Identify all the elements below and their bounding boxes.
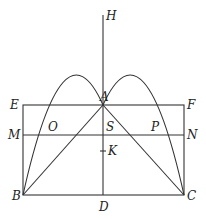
label-n: N <box>186 128 198 142</box>
label-m: M <box>7 128 21 142</box>
label-b: B <box>11 189 21 203</box>
label-k: K <box>107 144 118 158</box>
label-e: E <box>9 98 19 112</box>
label-s: S <box>106 120 114 134</box>
segment-ab <box>23 105 103 195</box>
label-d: D <box>98 200 109 214</box>
label-p: P <box>150 120 160 134</box>
label-h: H <box>105 9 117 23</box>
label-o: O <box>48 120 58 134</box>
label-a: A <box>99 90 109 104</box>
label-c: C <box>187 189 196 203</box>
geometry-diagram: H A E F M O S P N K B D C <box>0 0 206 219</box>
label-f: F <box>186 98 196 112</box>
